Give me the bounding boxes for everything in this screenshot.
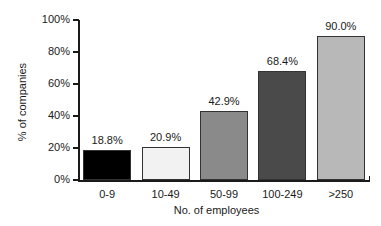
bar-value-label: 18.8%: [77, 135, 137, 146]
y-axis-tick-label: 100%: [26, 14, 70, 25]
bar-value-label: 68.4%: [252, 56, 312, 67]
y-axis-tick-label: 20%: [26, 142, 70, 153]
bar-value-label: 42.9%: [194, 96, 254, 107]
x-axis-title: No. of employees: [0, 204, 381, 216]
bar-chart: % of companies 0%20%40%60%80%100% 18.8%2…: [0, 0, 381, 226]
bar: [142, 147, 190, 180]
x-axis-line: [78, 180, 370, 182]
bar-value-label: 20.9%: [136, 132, 196, 143]
bar: [83, 150, 131, 180]
y-axis-tick-label: 80%: [26, 46, 70, 57]
x-axis-end-cap: [369, 176, 371, 181]
y-axis-tick-label: 60%: [26, 78, 70, 89]
y-axis-line: [78, 20, 80, 181]
bar: [317, 36, 365, 180]
x-axis-tick-label: >250: [307, 189, 375, 200]
y-axis-tick-label: 40%: [26, 110, 70, 121]
y-axis-tick-label: 0%: [26, 174, 70, 185]
bar-value-label: 90.0%: [311, 21, 371, 32]
bar: [258, 71, 306, 180]
bar: [200, 111, 248, 180]
